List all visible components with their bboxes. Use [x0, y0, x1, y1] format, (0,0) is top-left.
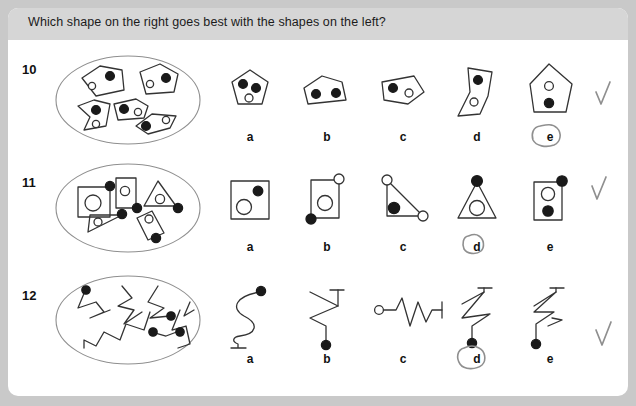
option-label-12-c[interactable]: c [391, 352, 415, 366]
question-number-11: 11 [22, 175, 36, 190]
option-label-11-b[interactable]: b [315, 240, 339, 254]
page-title: Which shape on the right goes best with … [28, 15, 386, 29]
option-label-10-d[interactable]: d [465, 130, 489, 144]
option-label-12-e[interactable]: e [538, 352, 562, 366]
option-label-10-a[interactable]: a [238, 130, 262, 144]
question-number-10: 10 [22, 62, 36, 77]
question-number-12: 12 [22, 288, 36, 303]
option-label-11-a[interactable]: a [238, 240, 262, 254]
option-label-11-c[interactable]: c [391, 240, 415, 254]
page-root: Which shape on the right goes best with … [0, 0, 636, 406]
content-card [8, 8, 628, 396]
option-label-10-e[interactable]: e [538, 130, 562, 144]
option-label-11-e[interactable]: e [538, 240, 562, 254]
option-label-12-a[interactable]: a [238, 352, 262, 366]
option-label-12-b[interactable]: b [315, 352, 339, 366]
option-label-10-c[interactable]: c [391, 130, 415, 144]
option-label-11-d[interactable]: d [465, 240, 489, 254]
option-label-12-d[interactable]: d [465, 352, 489, 366]
option-label-10-b[interactable]: b [315, 130, 339, 144]
